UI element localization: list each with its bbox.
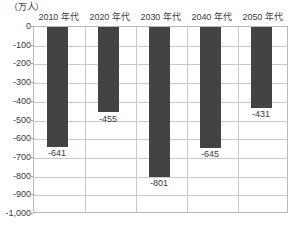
y-tick-label: -1,000 [0, 209, 31, 218]
bar-2050s [251, 27, 272, 108]
y-tick-label: -900 [0, 190, 31, 199]
category-separator [85, 27, 86, 212]
y-tick-label: -100 [0, 41, 31, 50]
y-tick-label: -400 [0, 97, 31, 106]
bar-value-2050s: -431 [244, 109, 278, 119]
y-tick-label: -300 [0, 78, 31, 87]
y-tick-label: -200 [0, 59, 31, 68]
category-separator [136, 27, 137, 212]
y-axis-tick-labels: 0 -100 -200 -300 -400 -500 -600 -700 -80… [0, 26, 31, 213]
x-category-label: 2020 年代 [84, 12, 135, 23]
plot-area: -641 -455 -801 -645 -431 [33, 26, 288, 213]
bar-2010s [47, 27, 68, 147]
gridline [34, 195, 287, 196]
x-category-label: 2030 年代 [135, 12, 186, 23]
y-tick-label: -800 [0, 172, 31, 181]
x-category-label: 2050 年代 [237, 12, 288, 23]
bar-value-2040s: -645 [193, 149, 227, 159]
bar-2020s [98, 27, 119, 112]
bar-value-2010s: -641 [40, 148, 74, 158]
category-separator [187, 27, 188, 212]
y-tick-label: -600 [0, 134, 31, 143]
y-tick-label: -700 [0, 153, 31, 162]
bar-2030s [149, 27, 170, 177]
bar-value-2020s: -455 [91, 114, 125, 124]
bar-2040s [200, 27, 221, 148]
y-tick-label: 0 [0, 22, 31, 31]
x-category-label: 2010 年代 [33, 12, 84, 23]
bar-value-2030s: -801 [142, 178, 176, 188]
y-tick-mark [30, 213, 33, 214]
category-separator [238, 27, 239, 212]
x-category-label: 2040 年代 [186, 12, 237, 23]
bar-chart: （万人） 0 -100 -200 -300 -400 -500 -600 -70… [0, 0, 294, 226]
y-tick-label: -500 [0, 116, 31, 125]
